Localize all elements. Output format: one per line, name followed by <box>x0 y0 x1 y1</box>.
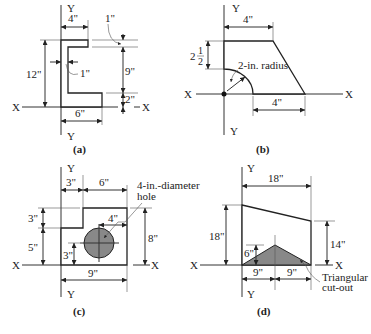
svg-text:Y: Y <box>247 288 255 300</box>
svg-text:6": 6" <box>244 247 254 259</box>
axis-x-label: X <box>142 101 150 113</box>
svg-text:4": 4" <box>243 13 253 25</box>
svg-text:X: X <box>151 259 159 271</box>
svg-text:Y: Y <box>232 2 240 14</box>
svg-text:18": 18" <box>209 230 225 242</box>
svg-text:1: 1 <box>198 45 203 56</box>
svg-text:X: X <box>12 259 20 271</box>
svg-text:4": 4" <box>108 212 118 224</box>
svg-text:3": 3" <box>28 212 38 224</box>
svg-text:cut-out: cut-out <box>322 281 353 293</box>
svg-text:4": 4" <box>272 96 282 108</box>
svg-text:X: X <box>184 88 192 100</box>
figure-c: Y Y X X 3" 6" 3" 5" 3" 4" 4-in.-diamete <box>12 162 200 318</box>
svg-text:hole: hole <box>137 190 156 202</box>
svg-text:Y: Y <box>67 288 75 300</box>
svg-text:1": 1" <box>105 12 115 24</box>
svg-text:9": 9" <box>287 266 297 278</box>
caption: (b) <box>256 143 270 156</box>
svg-text:X: X <box>190 259 198 271</box>
svg-text:5": 5" <box>28 241 38 253</box>
svg-text:2: 2 <box>190 50 196 62</box>
svg-text:X: X <box>345 88 353 100</box>
axis-y-label: Y <box>67 130 75 142</box>
svg-text:Y: Y <box>230 125 238 137</box>
figure-b: Y Y X X 4" 2 1 2 2-in. radius 4" (b) <box>184 2 353 156</box>
svg-text:8": 8" <box>148 232 158 244</box>
svg-text:2-in. radius: 2-in. radius <box>238 59 288 71</box>
svg-text:4": 4" <box>68 12 78 24</box>
axis-x-label: X <box>12 101 20 113</box>
svg-text:12": 12" <box>26 68 42 80</box>
svg-text:18": 18" <box>268 172 284 184</box>
figure-a: Y Y X X 4" 12" 1" 1" 9" 2" 6" <box>12 2 150 156</box>
caption: (c) <box>73 305 86 318</box>
svg-text:3": 3" <box>66 176 76 188</box>
svg-text:9": 9" <box>88 267 98 279</box>
svg-text:Y: Y <box>67 162 75 174</box>
svg-text:6": 6" <box>99 176 109 188</box>
svg-text:14": 14" <box>330 238 346 250</box>
svg-text:9": 9" <box>125 65 135 77</box>
caption: (a) <box>73 143 86 156</box>
svg-text:6": 6" <box>75 107 85 119</box>
svg-text:1": 1" <box>80 67 90 79</box>
svg-text:3": 3" <box>63 249 73 261</box>
svg-text:2: 2 <box>198 56 203 67</box>
svg-text:9": 9" <box>253 266 263 278</box>
caption: (d) <box>257 305 271 318</box>
origin-dot <box>222 92 227 97</box>
svg-text:2": 2" <box>125 93 135 105</box>
svg-text:X: X <box>335 259 343 271</box>
svg-text:Y: Y <box>247 162 255 174</box>
figure-d: Y Y X X 18" 18" 6" 14" 9" 9" Triangula <box>190 162 368 318</box>
